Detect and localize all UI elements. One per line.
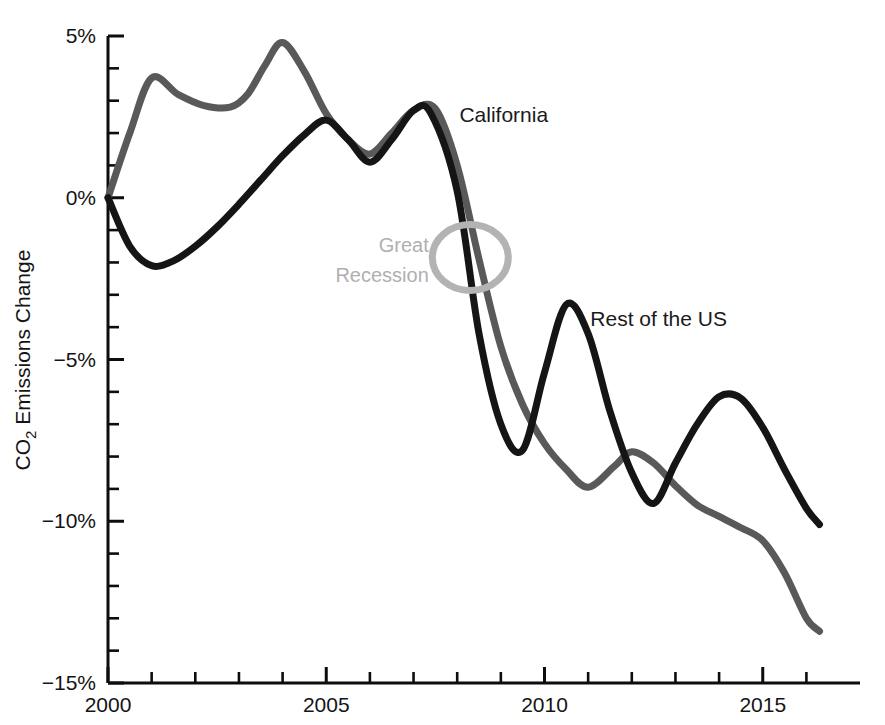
y-axis-title-subscript: 2 <box>22 431 39 439</box>
axis-ticks-group <box>108 36 806 683</box>
x-tick-label: 2015 <box>739 693 786 716</box>
y-tick-label: 5% <box>66 24 96 47</box>
chart-svg: 5%0%−5%−10%−15%2000200520102015 GreatRec… <box>0 0 885 725</box>
axis-tick-labels-group: 5%0%−5%−10%−15%2000200520102015 <box>42 24 786 716</box>
x-tick-label: 2000 <box>85 693 132 716</box>
y-axis-title: CO2 Emissions Change <box>11 250 39 471</box>
series-line-california <box>108 42 819 631</box>
y-axis-title-main: CO <box>11 439 34 471</box>
annotation-label-great-recession-line2: Recession <box>335 264 428 286</box>
y-tick-label: −10% <box>42 509 96 532</box>
data-series-group <box>108 42 819 631</box>
series-label-rest-of-the-us: Rest of the US <box>590 307 727 330</box>
y-tick-label: −5% <box>53 348 96 371</box>
chart-container: 5%0%−5%−10%−15%2000200520102015 GreatRec… <box>0 0 885 725</box>
y-axis-title-rest: Emissions Change <box>11 250 34 431</box>
y-tick-label: 0% <box>66 186 96 209</box>
series-labels-group: CaliforniaRest of the US <box>459 103 727 330</box>
x-tick-label: 2010 <box>521 693 568 716</box>
series-label-california: California <box>459 103 548 126</box>
annotation-label-great-recession-line1: Great <box>379 234 429 256</box>
y-axis-title-group: CO2 Emissions Change <box>11 250 39 471</box>
y-tick-label: −15% <box>42 671 96 694</box>
x-tick-label: 2005 <box>303 693 350 716</box>
